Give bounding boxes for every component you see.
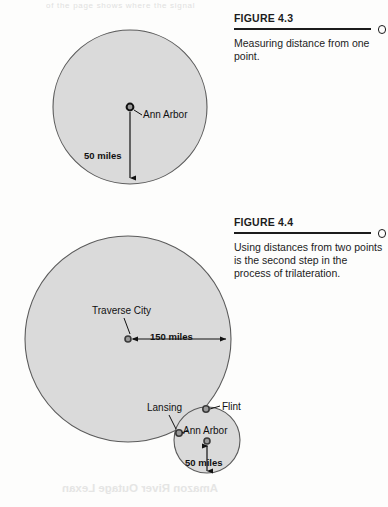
figure-caption-text-4-3: Measuring distance from one point. — [234, 37, 386, 63]
caption-rule-line — [234, 232, 371, 234]
label-ann-arbor-figure-44: Ann Arbor — [183, 425, 227, 436]
point-marker-flint — [203, 406, 209, 412]
caption-rule-line — [234, 28, 371, 30]
label-50-miles-figure-43: 50 miles — [84, 150, 122, 161]
diagram-two-points — [25, 236, 240, 473]
point-marker-traverse-city — [125, 336, 131, 342]
label-50-miles-figure-44: 50 miles — [185, 457, 223, 468]
figure-caption-text-4-4: Using distances from two points is the s… — [234, 241, 386, 281]
caption-rule-end-dot-icon — [378, 25, 387, 34]
figure-caption-4-3: FIGURE 4.3 Measuring distance from one p… — [234, 12, 386, 63]
point-marker-lansing — [176, 430, 182, 436]
label-flint: Flint — [222, 401, 241, 412]
label-150-miles: 150 miles — [150, 331, 193, 342]
figure-number-4-3: FIGURE 4.3 — [234, 12, 386, 24]
caption-rule-4-4 — [234, 229, 386, 238]
point-marker-ann-arbor-2 — [204, 438, 210, 444]
label-ann-arbor-figure-43: Ann Arbor — [143, 109, 187, 120]
caption-rule-4-3 — [234, 25, 386, 34]
figure-page: of the page shows where the signal — [0, 0, 388, 507]
label-lansing: Lansing — [147, 402, 182, 413]
diagram-one-point — [53, 30, 207, 184]
caption-rule-end-dot-icon — [378, 229, 387, 238]
figure-caption-4-4: FIGURE 4.4 Using distances from two poin… — [234, 216, 386, 281]
figure-number-4-4: FIGURE 4.4 — [234, 216, 386, 228]
label-traverse-city: Traverse City — [92, 305, 151, 316]
point-marker-ann-arbor-1 — [127, 104, 134, 111]
